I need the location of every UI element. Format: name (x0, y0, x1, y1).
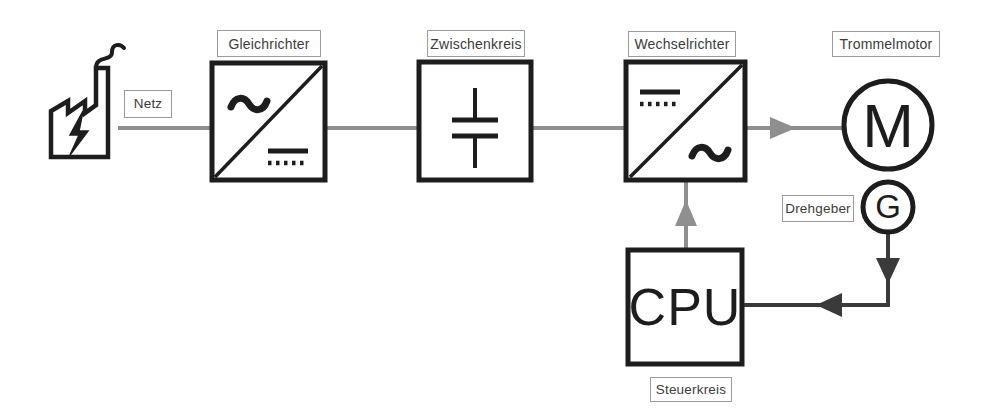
smoke-icon (96, 45, 124, 68)
block-gleichrichter[interactable] (212, 63, 325, 180)
arrowhead-to-wechselrichter-icon (675, 200, 697, 226)
label-gleichrichter: Gleichrichter (217, 30, 321, 57)
cpu-symbol-label: CPU (628, 250, 742, 364)
diagram-canvas: M G CPU Netz Gleichrichter Zwischenkreis… (0, 0, 987, 416)
wire-drehgeber-to-cpu (742, 231, 900, 317)
arrowhead-encoder-down-icon (876, 258, 900, 284)
label-netz: Netz (124, 90, 172, 118)
lightning-bolt-icon (70, 111, 88, 155)
block-zwischenkreis[interactable] (419, 62, 531, 180)
label-wechselrichter: Wechselrichter (628, 31, 736, 57)
arrowhead-to-cpu-icon (816, 293, 842, 317)
motor-symbol-label: M (845, 82, 931, 168)
label-trommelmotor: Trommelmotor (832, 31, 940, 57)
label-steuerkreis: Steuerkreis (650, 377, 732, 402)
arrowhead-to-motor-icon (770, 117, 796, 139)
label-zwischenkreis: Zwischenkreis (427, 30, 525, 57)
block-wechselrichter[interactable] (626, 62, 745, 180)
factory-icon (51, 45, 124, 157)
label-drehgeber: Drehgeber (782, 195, 854, 222)
wire-wechselrichter-to-motor (745, 117, 848, 139)
wire-cpu-to-wechselrichter (675, 181, 697, 250)
generator-symbol-label: G (864, 183, 912, 231)
